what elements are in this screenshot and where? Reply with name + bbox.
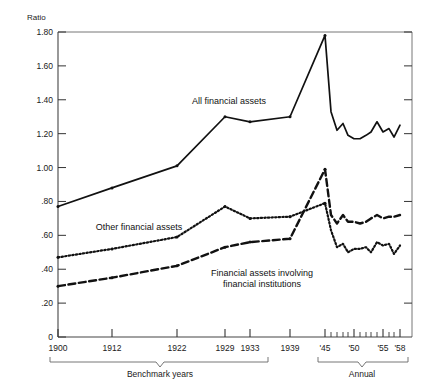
- y-tick-label: 1.80: [36, 27, 53, 37]
- y-tick-label: 1.40: [36, 95, 53, 105]
- chart-background: [0, 0, 432, 386]
- y-tick-label: 0: [48, 332, 53, 342]
- data-point: [289, 237, 292, 240]
- data-point: [224, 246, 227, 249]
- y-tick-label: 1.00: [36, 163, 53, 173]
- bracket-benchmark-label: Benchmark years: [127, 369, 193, 379]
- annotation-financial-institutions-line1: Financial assets involving: [211, 268, 313, 278]
- data-point: [176, 236, 179, 239]
- x-tick-label: 1933: [241, 343, 260, 353]
- x-tick-label: 1900: [49, 343, 68, 353]
- data-point: [249, 120, 252, 123]
- data-point: [57, 256, 60, 259]
- ratio-line-chart: Ratio 0.20.40.60.801.001.201.401.601.80 …: [0, 0, 432, 386]
- x-tick-label: 1939: [281, 343, 300, 353]
- y-tick-label: .40: [41, 264, 53, 274]
- data-point: [176, 164, 179, 167]
- data-point: [224, 115, 227, 118]
- chart-figure: Ratio 0.20.40.60.801.001.201.401.601.80 …: [0, 0, 432, 386]
- annotation-other-financial-assets: Other financial assets: [96, 222, 183, 232]
- annotation-financial-institutions-line2: financial institutions: [223, 279, 302, 289]
- x-tick-label: 1922: [168, 343, 187, 353]
- data-point: [289, 115, 292, 118]
- data-point: [324, 34, 327, 37]
- x-tick-label: '58: [394, 343, 405, 353]
- data-point: [111, 186, 114, 189]
- data-point: [176, 264, 179, 267]
- data-point: [57, 285, 60, 288]
- data-point: [224, 205, 227, 208]
- bracket-annual-label: Annual: [349, 369, 376, 379]
- data-point: [249, 241, 252, 244]
- y-tick-label: 1.20: [36, 129, 53, 139]
- x-tick-label: 1929: [216, 343, 235, 353]
- x-tick-label: '50: [348, 343, 359, 353]
- y-axis-unit-label: Ratio: [27, 13, 46, 22]
- y-tick-label: .60: [41, 230, 53, 240]
- data-point: [324, 168, 327, 171]
- data-point: [57, 205, 60, 208]
- y-tick-label: .20: [41, 298, 53, 308]
- data-point: [111, 247, 114, 250]
- x-tick-label: '45: [319, 343, 330, 353]
- data-point: [111, 276, 114, 279]
- y-tick-label: .80: [41, 196, 53, 206]
- x-tick-label: 1912: [103, 343, 122, 353]
- data-point: [324, 202, 327, 205]
- y-tick-label: 1.60: [36, 61, 53, 71]
- x-tick-label: '55: [377, 343, 388, 353]
- annotation-all-financial-assets: All financial assets: [192, 96, 267, 106]
- data-point: [289, 215, 292, 218]
- data-point: [249, 217, 252, 220]
